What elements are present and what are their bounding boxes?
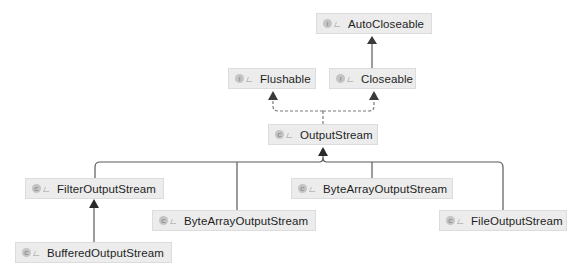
node-label: FilterOutputStream bbox=[57, 183, 156, 195]
visibility-icon bbox=[310, 186, 316, 192]
node-label: ByteArrayOutputStream bbox=[184, 215, 308, 227]
node-label: Closeable bbox=[361, 73, 413, 85]
node-label: AutoCloseable bbox=[348, 18, 424, 30]
visibility-icon bbox=[348, 76, 354, 82]
interface-icon: I bbox=[323, 19, 332, 28]
visibility-icon bbox=[44, 186, 50, 192]
node-label: BufferedOutputStream bbox=[47, 247, 164, 259]
visibility-icon bbox=[458, 218, 464, 224]
abstract-class-icon: C bbox=[275, 130, 284, 139]
arrow-outputstream bbox=[318, 147, 328, 156]
interface-icon: I bbox=[336, 74, 345, 83]
edge-buffered-filter bbox=[89, 199, 99, 242]
visibility-icon bbox=[335, 21, 341, 27]
class-node-bufferedoutputstream[interactable]: C BufferedOutputStream bbox=[15, 242, 172, 263]
node-label: OutputStream bbox=[300, 129, 373, 141]
class-node-autocloseable[interactable]: I AutoCloseable bbox=[316, 13, 432, 34]
node-label: ByteArrayOutputStream bbox=[323, 183, 447, 195]
class-icon: C bbox=[32, 184, 41, 193]
node-label: Flushable bbox=[260, 73, 311, 85]
class-node-flushable[interactable]: I Flushable bbox=[228, 68, 316, 89]
class-icon: C bbox=[159, 216, 168, 225]
class-node-filteroutputstream[interactable]: C FilterOutputStream bbox=[25, 178, 164, 199]
edge-outputstream-interfaces bbox=[273, 100, 374, 124]
interface-icon: I bbox=[235, 74, 244, 83]
class-icon: C bbox=[22, 248, 31, 257]
arrow-flushable bbox=[268, 91, 278, 100]
visibility-icon bbox=[247, 76, 253, 82]
class-node-fileoutputstream[interactable]: C FileOutputStream bbox=[439, 210, 567, 231]
class-node-bytearrayoutputstream-lower[interactable]: C ByteArrayOutputStream bbox=[152, 210, 316, 231]
class-icon: C bbox=[446, 216, 455, 225]
node-label: FileOutputStream bbox=[471, 215, 563, 227]
edge-closeable-autocloseable bbox=[367, 36, 377, 68]
class-node-outputstream[interactable]: C OutputStream bbox=[268, 124, 378, 145]
visibility-icon bbox=[171, 218, 177, 224]
class-node-bytearrayoutputstream-upper[interactable]: C ByteArrayOutputStream bbox=[291, 178, 453, 199]
class-node-closeable[interactable]: I Closeable bbox=[329, 68, 416, 89]
visibility-icon bbox=[287, 132, 293, 138]
arrow-closeable bbox=[369, 91, 379, 100]
class-icon: C bbox=[298, 184, 307, 193]
visibility-icon bbox=[34, 250, 40, 256]
